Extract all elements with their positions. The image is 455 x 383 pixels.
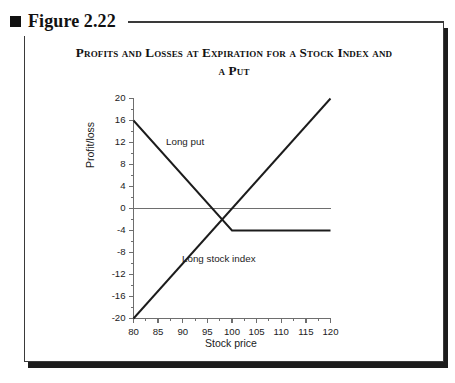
y-tick-label: 16 xyxy=(94,114,126,125)
y-tick-label: 12 xyxy=(94,136,126,147)
y-tick-label: 20 xyxy=(94,92,126,103)
y-tick-label: -20 xyxy=(94,312,126,323)
series-label-long-stock-index: Long stock index xyxy=(182,253,256,264)
y-tick-label: -4 xyxy=(94,224,126,235)
y-tick-label: -16 xyxy=(94,290,126,301)
y-tick-label: 4 xyxy=(94,180,126,191)
y-tick-label: -12 xyxy=(94,268,126,279)
x-axis-title: Stock price xyxy=(205,337,257,349)
series-line xyxy=(134,121,331,231)
y-tick-label: 0 xyxy=(94,202,126,213)
chart-title-line-2: a Put xyxy=(218,63,249,78)
figure-header-rule xyxy=(128,21,444,22)
y-tick-label: -8 xyxy=(94,246,126,257)
figure-container: Figure 2.22 Profits and Losses at Expira… xyxy=(0,0,455,383)
figure-header: Figure 2.22 xyxy=(10,6,122,36)
chart-title-line-1: Profits and Losses at Expiration for a S… xyxy=(76,45,392,60)
y-tick-label: 8 xyxy=(94,158,126,169)
x-tick-label: 120 xyxy=(315,326,347,337)
chart-title: Profits and Losses at Expiration for a S… xyxy=(46,44,422,80)
series-label-long-put: Long put xyxy=(166,136,204,147)
square-bullet-icon xyxy=(10,16,21,27)
figure-label: Figure 2.22 xyxy=(28,11,116,32)
